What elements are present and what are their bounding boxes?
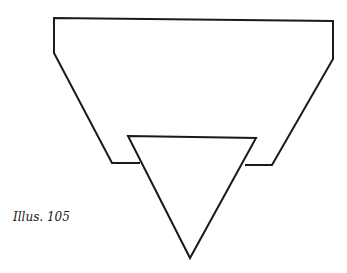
illustration-caption: Illus. 105: [13, 210, 70, 224]
illustration-canvas: Illus. 105: [0, 0, 347, 273]
folded-shape-diagram: [0, 0, 347, 273]
outer-shape-edge: [54, 18, 333, 165]
inner-triangle: [128, 136, 256, 258]
